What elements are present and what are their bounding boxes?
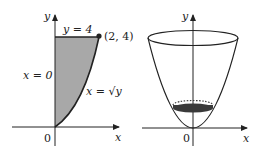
point-label: (2, 4) bbox=[104, 30, 134, 43]
origin-label: 0 bbox=[44, 132, 51, 145]
top-line-label: y = 4 bbox=[62, 23, 92, 36]
left-boundary-label: x = 0 bbox=[23, 69, 52, 82]
curve-label: x = √y bbox=[86, 85, 122, 98]
y-axis-label: y bbox=[181, 10, 189, 23]
shaded-region bbox=[55, 37, 99, 127]
x-axis-label: x bbox=[115, 131, 122, 144]
origin-label: 0 bbox=[183, 132, 190, 145]
y-axis-label: y bbox=[43, 10, 51, 23]
figure: y x 0 y = 4 (2, 4) x = 0 x = √y y x 0 bbox=[0, 0, 261, 151]
point-2-4 bbox=[96, 33, 101, 38]
x-axis-label: x bbox=[243, 132, 250, 145]
right-graph: y x 0 bbox=[142, 10, 250, 146]
disk-slice-side bbox=[173, 105, 213, 108]
left-graph: y x 0 y = 4 (2, 4) x = 0 x = √y bbox=[12, 10, 134, 146]
